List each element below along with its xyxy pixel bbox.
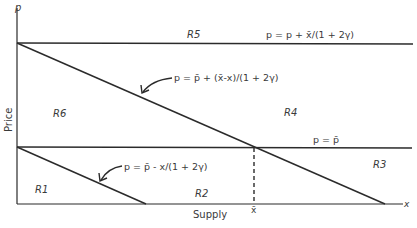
x-axis-label: x [403,199,410,209]
eq-lower-diagonal: p = p̄ - x/(1 + 2γ) [124,161,207,172]
lower-diagonal-line [17,147,146,204]
upper-horizontal-line [17,43,413,44]
region-r6: R6 [53,108,66,119]
region-r1: R1 [35,184,48,195]
lower-arrow-icon [101,166,122,180]
upper-arrow-icon [143,78,172,92]
region-r3: R3 [373,159,386,170]
xbar-label: x̄ [251,205,257,215]
eq-upper-horizontal: p = p + x̄/(1 + 2γ) [266,29,354,40]
eq-middle-horizontal: p = p̄ [313,134,339,145]
middle-horizontal-line [17,147,412,148]
region-r5: R5 [187,29,200,40]
region-r4: R4 [284,107,297,118]
price-supply-diagram: p x Price Supply x̄ R1 R2 R3 R4 R5 R6 p … [0,0,417,228]
region-r2: R2 [195,188,208,199]
eq-upper-diagonal: p = p̄ + (x̄-x)/(1 + 2γ) [174,72,278,83]
supply-label: Supply [193,209,227,220]
price-label: Price [3,108,14,132]
p-axis-label: p [14,2,21,13]
upper-diagonal-line [17,43,385,204]
